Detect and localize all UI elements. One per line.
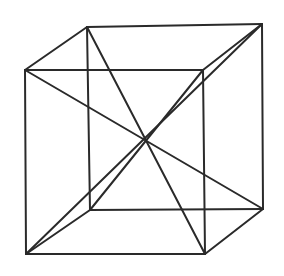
front-left-edge	[25, 70, 26, 254]
diagonal-ftr-bbl	[90, 70, 203, 210]
back-left-edge	[87, 27, 90, 210]
cube-drawing	[0, 0, 284, 276]
back-bottom-edge	[90, 209, 263, 210]
back-right-edge	[262, 24, 263, 209]
bottom-right-connector	[205, 209, 263, 254]
top-right-connector	[203, 24, 262, 70]
back-top-edge	[87, 24, 262, 27]
bottom-left-connector	[26, 210, 90, 254]
diagonal-btr-fbl	[26, 24, 262, 254]
front-right-edge	[203, 70, 205, 254]
cube-diagram	[0, 0, 284, 276]
top-left-connector	[25, 27, 87, 70]
